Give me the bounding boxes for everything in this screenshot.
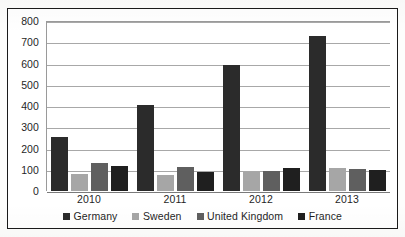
y-axis-tick-label: 500 xyxy=(21,79,39,91)
bar xyxy=(197,172,214,191)
legend-item[interactable]: Germany xyxy=(63,210,117,222)
legend-item[interactable]: United Kingdom xyxy=(197,210,284,222)
bar xyxy=(309,36,326,191)
legend-item[interactable]: France xyxy=(298,210,342,222)
legend-label: Sweden xyxy=(143,210,182,222)
y-axis-tick-label: 600 xyxy=(21,58,39,70)
bar-slot xyxy=(263,21,280,191)
bar-slot xyxy=(309,21,326,191)
x-axis-tick-label: 2011 xyxy=(132,193,218,205)
y-axis-tick-label: 700 xyxy=(21,36,39,48)
bar xyxy=(263,171,280,191)
y-axis: 8007006005004003002001000 xyxy=(8,21,44,191)
chart-frame: 8007006005004003002001000 20102011201220… xyxy=(7,8,398,229)
legend-swatch-icon xyxy=(197,213,204,220)
bar-slot xyxy=(91,21,108,191)
bar-group xyxy=(304,21,390,191)
bar-slot xyxy=(71,21,88,191)
bar xyxy=(51,137,68,191)
chart-screenshot: 8007006005004003002001000 20102011201220… xyxy=(0,0,405,237)
y-axis-tick-label: 0 xyxy=(33,185,39,197)
bar-slot xyxy=(111,21,128,191)
bar-group xyxy=(46,21,132,191)
bar xyxy=(137,105,154,191)
bar xyxy=(91,163,108,191)
x-axis-tick-label: 2013 xyxy=(304,193,390,205)
bar-slot xyxy=(283,21,300,191)
bar xyxy=(243,172,260,191)
bar-slot xyxy=(243,21,260,191)
bar-slot xyxy=(197,21,214,191)
x-axis-tick-label: 2010 xyxy=(46,193,132,205)
bar-slot xyxy=(177,21,194,191)
legend-label: France xyxy=(309,210,342,222)
bar-group xyxy=(132,21,218,191)
bar xyxy=(177,167,194,191)
bar xyxy=(283,168,300,191)
y-axis-tick-label: 100 xyxy=(21,164,39,176)
bar xyxy=(223,65,240,191)
y-axis-tick-label: 800 xyxy=(21,15,39,27)
bar xyxy=(157,175,174,191)
legend-swatch-icon xyxy=(298,213,305,220)
x-axis-tick-label: 2012 xyxy=(218,193,304,205)
legend-swatch-icon xyxy=(63,213,70,220)
bar-groups xyxy=(46,21,390,191)
legend-item[interactable]: Sweden xyxy=(132,210,181,222)
bar xyxy=(111,166,128,192)
bar-slot xyxy=(329,21,346,191)
bar xyxy=(329,168,346,191)
y-axis-tick-label: 400 xyxy=(21,100,39,112)
chart-legend: GermanySwedenUnited KingdomFrance xyxy=(8,210,397,222)
bar xyxy=(71,174,88,191)
bar-group xyxy=(218,21,304,191)
y-axis-tick-label: 300 xyxy=(21,121,39,133)
legend-label: United Kingdom xyxy=(207,210,283,222)
bar-slot xyxy=(223,21,240,191)
y-axis-tick-label: 200 xyxy=(21,143,39,155)
legend-label: Germany xyxy=(74,210,118,222)
bar xyxy=(349,169,366,191)
bar-slot xyxy=(157,21,174,191)
bar-slot xyxy=(137,21,154,191)
bar xyxy=(369,170,386,191)
bar-slot xyxy=(369,21,386,191)
x-axis: 2010201120122013 xyxy=(46,193,390,205)
bar-slot xyxy=(349,21,366,191)
bar-slot xyxy=(51,21,68,191)
legend-swatch-icon xyxy=(132,213,139,220)
